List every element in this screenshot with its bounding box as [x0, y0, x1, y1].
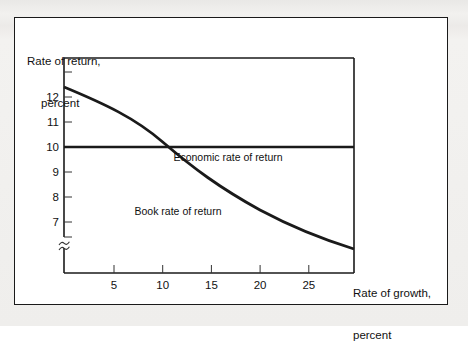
x-tick-marks: [114, 265, 309, 273]
series-line-book-rate-of-return: [64, 87, 354, 249]
x-tick-label-25: 25: [302, 279, 315, 291]
x-tick-labels: 5 10 15 20 25: [111, 279, 315, 291]
x-tick-label-15: 15: [205, 279, 218, 291]
figure-frame: Rate of return, percent Rate of growth, …: [14, 17, 448, 305]
y-tick-label-9: 9: [53, 166, 59, 178]
plot-canvas: 12 11 10 9 8 7 5 10 15 20 25: [15, 18, 449, 306]
y-tick-label-8: 8: [53, 191, 59, 203]
plot-box-borders: [64, 58, 354, 273]
series-annotation-economic: Economic rate of return: [173, 151, 282, 163]
y-tick-label-11: 11: [47, 116, 59, 128]
y-tick-label-12: 12: [46, 91, 59, 103]
y-tick-labels: 12 11 10 9 8 7: [46, 91, 59, 228]
y-tick-marks: [64, 72, 72, 237]
x-axis-title-line2: percent: [353, 328, 431, 342]
x-tick-label-10: 10: [156, 279, 169, 291]
y-tick-label-10: 10: [46, 141, 59, 153]
y-tick-label-7: 7: [53, 216, 59, 228]
series-annotation-book: Book rate of return: [135, 205, 222, 217]
axis-break-icon: [59, 242, 69, 250]
x-tick-label-5: 5: [111, 279, 117, 291]
x-tick-label-20: 20: [254, 279, 267, 291]
